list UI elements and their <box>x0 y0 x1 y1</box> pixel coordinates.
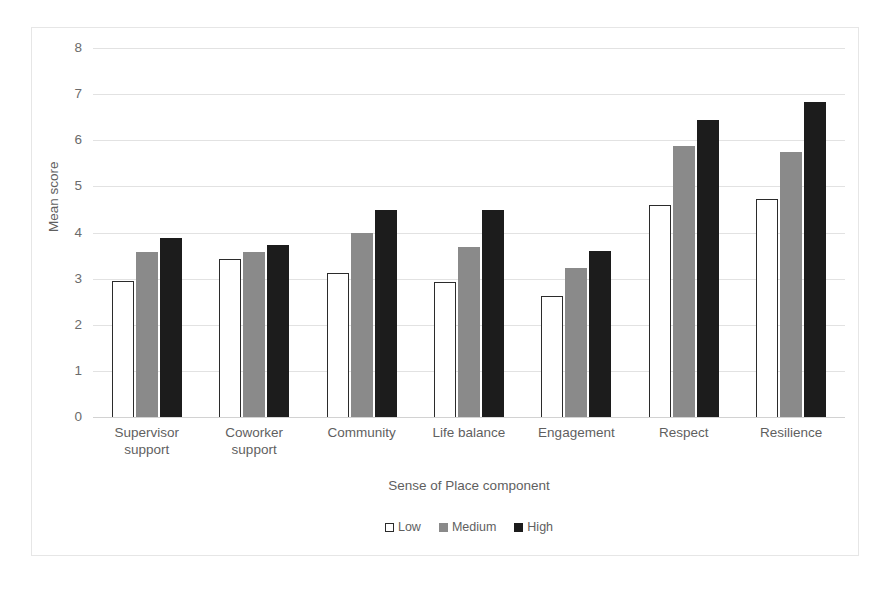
bar-group-resilience <box>738 48 845 417</box>
x-label-line-1: Community <box>327 425 395 440</box>
x-label-line-1: Engagement <box>538 425 615 440</box>
legend-label: Medium <box>452 521 496 534</box>
x-axis-tick-label-supervisor-support: Supervisorsupport <box>93 424 200 458</box>
x-label-line-1: Life balance <box>433 425 506 440</box>
bar-group-life-balance <box>415 48 522 417</box>
bar-medium-coworker-support[interactable] <box>243 252 265 417</box>
bar-low-life-balance[interactable] <box>434 282 456 417</box>
x-axis-tick-label-respect: Respect <box>630 424 737 458</box>
x-label-line-2: support <box>200 441 307 458</box>
y-axis-tick-label: 4 <box>74 226 82 240</box>
y-axis-tick-label: 8 <box>74 41 82 55</box>
y-axis-title: Mean score <box>47 161 61 232</box>
bar-medium-resilience[interactable] <box>780 152 802 417</box>
bar-low-resilience[interactable] <box>756 199 778 417</box>
x-axis-title: Sense of Place component <box>93 478 845 493</box>
bar-high-supervisor-support[interactable] <box>160 238 182 417</box>
bar-groups <box>93 48 845 417</box>
bar-medium-supervisor-support[interactable] <box>136 252 158 417</box>
bar-high-community[interactable] <box>375 210 397 417</box>
x-axis-tick-label-resilience: Resilience <box>738 424 845 458</box>
bar-group-engagement <box>523 48 630 417</box>
legend-swatch-icon-low <box>385 523 394 532</box>
bar-high-resilience[interactable] <box>804 102 826 417</box>
gridline-0 <box>93 417 845 418</box>
legend-swatch-icon-high <box>514 523 523 532</box>
x-label-line-1: Respect <box>659 425 709 440</box>
y-axis-tick-label: 6 <box>74 134 82 148</box>
bar-low-coworker-support[interactable] <box>219 259 241 417</box>
bar-medium-respect[interactable] <box>673 146 695 417</box>
x-label-line-1: Resilience <box>760 425 822 440</box>
x-axis-tick-labels: SupervisorsupportCoworkersupportCommunit… <box>93 424 845 458</box>
y-axis-tick-label: 2 <box>74 318 82 332</box>
chart-container: Mean score 876543210 SupervisorsupportCo… <box>0 0 889 594</box>
bar-medium-life-balance[interactable] <box>458 247 480 417</box>
legend-item-high[interactable]: High <box>514 521 553 534</box>
bar-group-respect <box>630 48 737 417</box>
x-axis-tick-label-coworker-support: Coworkersupport <box>200 424 307 458</box>
bar-group-community <box>308 48 415 417</box>
bar-medium-engagement[interactable] <box>565 268 587 417</box>
bar-low-community[interactable] <box>327 273 349 417</box>
legend-label: High <box>527 521 553 534</box>
y-axis-tick-label: 7 <box>74 87 82 101</box>
x-axis-tick-label-life-balance: Life balance <box>415 424 522 458</box>
x-axis-tick-label-community: Community <box>308 424 415 458</box>
bar-low-respect[interactable] <box>649 205 671 417</box>
bar-high-life-balance[interactable] <box>482 210 504 417</box>
bar-medium-community[interactable] <box>351 233 373 418</box>
x-label-line-1: Supervisor <box>114 425 179 440</box>
x-label-line-1: Coworker <box>225 425 283 440</box>
bar-low-supervisor-support[interactable] <box>112 281 134 417</box>
y-axis-tick-label: 0 <box>74 410 82 424</box>
plot-area: 876543210 <box>93 48 845 417</box>
x-axis-tick-label-engagement: Engagement <box>523 424 630 458</box>
bar-high-respect[interactable] <box>697 120 719 417</box>
y-axis-tick-label: 3 <box>74 272 82 286</box>
legend-swatch-icon-medium <box>439 523 448 532</box>
chart-legend: LowMediumHigh <box>93 521 845 534</box>
legend-item-low[interactable]: Low <box>385 521 421 534</box>
bar-high-coworker-support[interactable] <box>267 245 289 417</box>
x-label-line-2: support <box>93 441 200 458</box>
y-axis-tick-label: 1 <box>74 364 82 378</box>
legend-label: Low <box>398 521 421 534</box>
bar-group-coworker-support <box>200 48 307 417</box>
bar-low-engagement[interactable] <box>541 296 563 417</box>
bar-high-engagement[interactable] <box>589 251 611 417</box>
y-axis-tick-label: 5 <box>74 180 82 194</box>
bar-group-supervisor-support <box>93 48 200 417</box>
legend-item-medium[interactable]: Medium <box>439 521 496 534</box>
